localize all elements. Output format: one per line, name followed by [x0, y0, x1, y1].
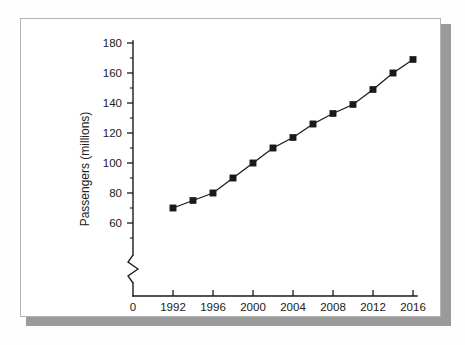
- origin-label: 0: [130, 301, 136, 313]
- data-point-2000: [250, 160, 256, 166]
- data-series-markers: [170, 56, 416, 211]
- y-tick-label-140: 140: [103, 97, 122, 109]
- data-point-2004: [290, 134, 296, 140]
- figure-frame: 180 160 140 120 100 80 60 0 1992 19: [20, 18, 441, 317]
- y-tick-label-160: 160: [103, 67, 122, 79]
- x-tick-label-2016: 2016: [400, 301, 426, 313]
- y-tick-label-180: 180: [103, 37, 122, 49]
- page-root: 180 160 140 120 100 80 60 0 1992 19: [0, 0, 465, 345]
- data-point-2012: [370, 86, 376, 92]
- line-chart: 180 160 140 120 100 80 60 0 1992 19: [21, 19, 440, 316]
- y-tick-label-120: 120: [103, 127, 122, 139]
- data-series-line: [173, 60, 413, 209]
- data-point-2008: [330, 110, 336, 116]
- y-axis-title: Passengers (millions): [78, 112, 92, 227]
- x-tick-label-1992: 1992: [160, 301, 186, 313]
- x-tick-label-1996: 1996: [200, 301, 226, 313]
- data-point-1994: [190, 197, 196, 203]
- x-tick-label-2000: 2000: [240, 301, 266, 313]
- data-point-1992: [170, 205, 176, 211]
- data-point-2006: [310, 121, 316, 127]
- data-point-2010: [350, 101, 356, 107]
- data-point-1996: [210, 190, 216, 196]
- y-axis-break-icon: [128, 255, 138, 283]
- y-tick-label-100: 100: [103, 157, 122, 169]
- x-tick-label-2008: 2008: [320, 301, 346, 313]
- data-point-1998: [230, 175, 236, 181]
- data-point-2002: [270, 145, 276, 151]
- y-tick-label-60: 60: [109, 217, 122, 229]
- data-point-2016: [410, 56, 416, 62]
- x-tick-label-2004: 2004: [280, 301, 306, 313]
- data-point-2014: [390, 70, 396, 76]
- chart-plot-area: 180 160 140 120 100 80 60 0 1992 19: [21, 19, 440, 316]
- x-tick-label-2012: 2012: [360, 301, 386, 313]
- y-tick-label-80: 80: [109, 187, 122, 199]
